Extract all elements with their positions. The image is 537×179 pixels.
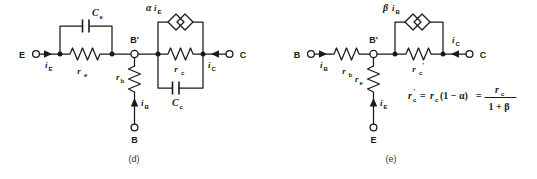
current-arrow-ie-d	[44, 50, 52, 57]
dependent-source-diamond-1-e	[405, 14, 421, 30]
terminal-open-circle-collector-e[interactable]	[466, 51, 473, 58]
capacitor-sublabel-cc-d: c	[180, 104, 184, 110]
terminal-label-collector-d: C	[240, 50, 247, 60]
terminal-open-circle-base-e[interactable]	[308, 51, 315, 58]
equation-mid-sub: c	[435, 97, 439, 103]
capacitor-label-cc-d: C	[172, 97, 179, 108]
terminal-open-circle-base-d[interactable]	[131, 124, 138, 131]
node-label-bprime-d: B'	[130, 35, 139, 45]
equation-lhs-symbol: r	[408, 90, 412, 101]
wire-ce-left-d	[60, 26, 82, 54]
terminal-label-collector-e: C	[480, 50, 487, 60]
dependent-source-diamond-2-d	[177, 14, 193, 30]
resistor-rc-prime-e	[395, 48, 443, 60]
wire-source-left-d	[158, 22, 168, 54]
terminal-label-emitter-e: E	[370, 135, 376, 145]
current-arrow-ib-e	[319, 50, 327, 57]
resistor-label-rc-d: r	[174, 64, 178, 74]
current-arrow-ic-e	[451, 50, 459, 57]
terminal-label-base-e: B	[294, 50, 301, 60]
resistor-sublabel-rc-prime-e: c	[419, 70, 423, 76]
resistor-re-d	[60, 48, 112, 60]
dependent-source-label-beta-e: β	[382, 2, 389, 13]
circuit-diagram-svg: E i E r e C e	[0, 0, 537, 179]
current-arrow-ic-d	[211, 50, 219, 57]
resistor-sublabel-rb-e: b	[349, 72, 353, 78]
terminal-open-circle-collector-d[interactable]	[226, 51, 233, 58]
resistor-rc-d	[158, 48, 203, 60]
panel-caption-d: (d)	[129, 154, 140, 164]
equation-numerator-symbol: r	[495, 84, 499, 95]
dependent-source-label-alpha-d: α	[146, 2, 152, 13]
current-sublabel-ib-e: B	[324, 66, 329, 72]
capacitor-sublabel-ce-d: e	[100, 14, 104, 20]
wire-source-right-d	[193, 22, 203, 54]
resistor-label-rc-prime-e: r	[412, 64, 416, 74]
resistor-sublabel-rb-d: b	[121, 78, 125, 84]
resistor-label-rb-e: r	[342, 66, 346, 76]
node-bprime-d[interactable]	[131, 50, 138, 57]
panel-caption-e: (e)	[386, 154, 397, 164]
dependent-source-sublabel-b-e: B	[396, 9, 401, 15]
wire-source-left-e	[395, 22, 405, 54]
terminal-open-circle-emitter-d[interactable]	[33, 51, 40, 58]
node-label-bprime-e: B'	[369, 35, 378, 45]
equation-denominator: 1 + β	[489, 101, 510, 112]
figure-root: E i E r e C e	[0, 0, 537, 179]
dependent-source-diamond-1-d	[168, 14, 184, 30]
wire-source-right-e	[430, 22, 443, 54]
equation-lhs-prime: '	[414, 88, 416, 94]
equation-equals-1: =	[420, 90, 426, 101]
equation-mid-symbol: r	[430, 90, 434, 101]
node-bprime-e[interactable]	[370, 50, 377, 57]
dependent-source-sublabel-e-d: E	[158, 9, 162, 15]
dependent-source-diamond-2-e	[414, 14, 430, 30]
capacitor-label-ce-d: C	[92, 7, 99, 18]
current-sublabel-ie-e: E	[384, 104, 388, 110]
resistor-sublabel-re-d: e	[84, 72, 88, 78]
panel-e: B i B r b B' r e i E	[294, 2, 516, 164]
equation-lhs-sub: c	[413, 97, 417, 103]
resistor-prime-mark-rc-e: '	[423, 62, 425, 68]
current-sublabel-ie-d: E	[49, 66, 53, 72]
equation-mid-factor: (1 − α)	[440, 90, 468, 102]
resistor-label-re-d: r	[77, 66, 81, 76]
resistor-sublabel-rc-d: c	[181, 70, 185, 76]
resistor-rb-e	[330, 48, 370, 60]
terminal-label-emitter-d: E	[19, 50, 25, 60]
equation-equals-2: =	[476, 90, 482, 101]
resistor-label-rb-d: r	[116, 72, 120, 82]
terminal-label-base-d: B	[131, 135, 138, 145]
current-sublabel-ic-d: C	[212, 66, 217, 72]
wire-cc-left-d	[158, 54, 172, 88]
current-sublabel-ib-d: B	[145, 104, 150, 110]
equation-numerator-sub: c	[501, 91, 505, 97]
current-sublabel-ic-e: C	[456, 41, 461, 47]
equation-rc-prime: r c ' = r c (1 − α) = r c 1 + β	[408, 84, 516, 112]
resistor-sublabel-re-e: e	[360, 80, 364, 86]
terminal-open-circle-emitter-e[interactable]	[370, 124, 377, 131]
panel-d: E i E r e C e	[19, 2, 247, 164]
resistor-label-re-e: r	[355, 74, 359, 84]
